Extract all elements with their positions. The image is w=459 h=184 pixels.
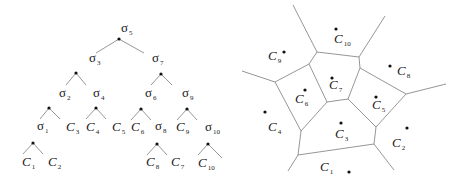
- tree-node-label-s9-subscript: 9: [190, 94, 194, 102]
- tree-leaf-label-C6: C6: [131, 119, 145, 136]
- tree-node-label-s1: σ1: [37, 118, 49, 135]
- tree-edge: [141, 109, 151, 120]
- tree-node-label-s10: σ10: [205, 119, 221, 136]
- tree-edge: [23, 143, 33, 154]
- tree-node-label-s2-subscript: 2: [67, 94, 71, 102]
- voronoi-site-label-C9: C9: [268, 48, 282, 65]
- tree-edge: [86, 108, 96, 119]
- tree-leaf-label-C5-subscript: 5: [122, 128, 126, 136]
- voronoi-edge: [298, 131, 301, 155]
- voronoi-edge: [298, 144, 374, 155]
- voronoi-site-label-C10: C10: [334, 31, 351, 48]
- tree-leaf-label-C4: C4: [86, 119, 100, 136]
- tree-leaf-label-C10-subscript: 10: [208, 164, 216, 172]
- voronoi-edge: [374, 144, 394, 170]
- tree-leaf-label-C2-subscript: 2: [58, 163, 62, 171]
- tree-leaf-label-C6-symbol: C: [131, 119, 140, 134]
- voronoi-site-label-C7-symbol: C: [329, 77, 338, 92]
- tree-leaf-label-C6-subscript: 6: [141, 128, 145, 136]
- tree-node-dot-s8: [155, 142, 158, 145]
- voronoi-site-label-C9-symbol: C: [268, 48, 277, 63]
- voronoi-site-label-C10-subscript: 10: [344, 40, 352, 48]
- tree-edge: [198, 144, 208, 155]
- tree-leaf-label-C5-symbol: C: [112, 119, 121, 134]
- tree-node-dot-s7: [159, 72, 162, 75]
- voronoi-site-label-C8-subscript: 8: [407, 72, 411, 80]
- voronoi-edge: [406, 84, 446, 94]
- voronoi-edge: [359, 57, 360, 68]
- tree-leaf-label-C9: C9: [176, 119, 190, 136]
- binary-tree: σ5σ3σ7σ2σ4σ6σ9σ1σ8σ10C1C2C3C4C5C6C9C8C7C…: [22, 20, 222, 172]
- tree-node-label-s8-subscript: 8: [163, 127, 167, 135]
- voronoi-site-label-C6-symbol: C: [295, 91, 304, 106]
- tree-node-label-s7: σ7: [152, 50, 164, 67]
- tree-leaf-label-C4-subscript: 4: [96, 128, 100, 136]
- tree-node-label-s3: σ3: [89, 50, 101, 67]
- tree-leaf-label-C7-subscript: 7: [181, 163, 185, 171]
- voronoi-site-label-C1: C1: [320, 159, 334, 176]
- voronoi-edge: [374, 127, 376, 144]
- voronoi-edge: [242, 71, 275, 82]
- voronoi-edge: [327, 99, 348, 102]
- voronoi-site-label-C3-symbol: C: [335, 126, 344, 141]
- tree-leaf-label-C2-symbol: C: [48, 154, 57, 169]
- tree-node-label-s1-subscript: 1: [45, 127, 49, 135]
- voronoi-site-dot-C9: [282, 50, 285, 53]
- voronoi-site-dot-C6: [303, 88, 306, 91]
- tree-node-label-s3-subscript: 3: [97, 59, 101, 67]
- tree-node-label-s9: σ9: [182, 85, 194, 102]
- voronoi-site-label-C2: C2: [392, 135, 406, 152]
- tree-leaf-label-C5: C5: [112, 119, 126, 136]
- tree-node-label-s7-subscript: 7: [160, 59, 164, 67]
- voronoi-edge: [293, 5, 317, 52]
- tree-leaf-label-C1-subscript: 1: [32, 163, 36, 171]
- tree-leaf-label-C1: C1: [22, 154, 36, 171]
- voronoi-site-label-C3: C3: [335, 126, 349, 143]
- diagram-canvas: σ5σ3σ7σ2σ4σ6σ9σ1σ8σ10C1C2C3C4C5C6C9C8C7C…: [0, 0, 459, 184]
- voronoi-site-dot-C8: [388, 64, 391, 67]
- tree-edge: [33, 143, 43, 154]
- tree-leaf-label-C7-symbol: C: [171, 154, 180, 169]
- voronoi-edge: [275, 64, 309, 82]
- voronoi-site-dot-C4: [263, 110, 266, 113]
- voronoi-site-label-C3-subscript: 3: [345, 135, 349, 143]
- tree-edge: [208, 144, 222, 158]
- voronoi-site-label-C4-symbol: C: [268, 119, 277, 134]
- tree-node-label-s4-subscript: 4: [101, 94, 105, 102]
- voronoi-site-label-C8: C8: [397, 63, 411, 80]
- tree-node-label-s5-subscript: 5: [129, 29, 133, 37]
- voronoi-edge: [309, 64, 327, 102]
- voronoi-site-label-C5-subscript: 5: [382, 106, 386, 114]
- tree-leaf-label-C8-symbol: C: [146, 154, 155, 169]
- tree-leaf-label-C7: C7: [171, 154, 185, 171]
- tree-leaf-label-C8: C8: [146, 154, 160, 171]
- voronoi-site-label-C7: C7: [329, 77, 343, 94]
- tree-edge: [49, 108, 60, 119]
- tree-edge: [161, 74, 172, 85]
- voronoi-site-label-C9-subscript: 9: [278, 57, 282, 65]
- voronoi-site-label-C4-subscript: 4: [278, 128, 282, 136]
- tree-node-label-s2: σ2: [59, 85, 71, 102]
- tree-node-label-s7-symbol: σ: [152, 50, 159, 65]
- tree-node-label-s6: σ6: [145, 85, 157, 102]
- tree-leaf-label-C9-subscript: 9: [186, 128, 190, 136]
- tree-node-dot-s10: [206, 142, 209, 145]
- voronoi-site-dot-C1: [347, 170, 350, 173]
- voronoi-diagram: C10C9C8C7C6C5C4C3C2C1: [242, 5, 446, 176]
- tree-node-label-s5: σ5: [121, 20, 133, 37]
- voronoi-site-label-C2-symbol: C: [392, 135, 401, 150]
- voronoi-edge: [288, 155, 298, 171]
- tree-edge: [151, 74, 161, 85]
- voronoi-site-label-C5-symbol: C: [372, 97, 381, 112]
- tree-node-dot-s2: [47, 106, 50, 109]
- tree-edge: [96, 39, 119, 53]
- tree-leaf-label-C3: C3: [66, 119, 80, 136]
- tree-leaf-label-C9-symbol: C: [176, 119, 185, 134]
- tree-leaf-label-C4-symbol: C: [86, 119, 95, 134]
- tree-leaf-label-C1-symbol: C: [22, 154, 31, 169]
- voronoi-edge: [309, 52, 317, 64]
- tree-node-label-s4: σ4: [93, 85, 105, 102]
- tree-edge: [187, 109, 197, 120]
- tree-node-label-s1-symbol: σ: [37, 118, 44, 133]
- tree-leaf-label-C10-symbol: C: [198, 155, 207, 170]
